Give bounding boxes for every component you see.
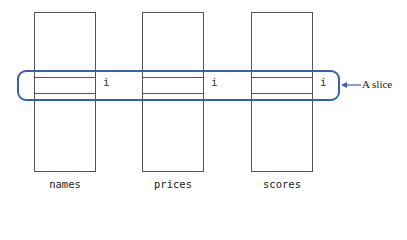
slice-callout: A slice — [362, 78, 392, 90]
arrow-left-icon — [340, 80, 362, 90]
label-names: names — [34, 178, 96, 190]
label-scores: scores — [251, 178, 313, 190]
slice-highlight — [17, 70, 340, 101]
label-prices: prices — [142, 178, 204, 190]
